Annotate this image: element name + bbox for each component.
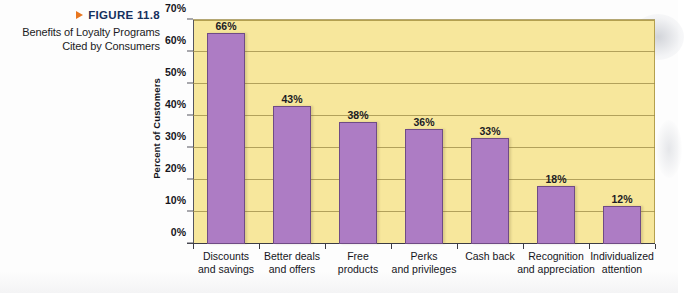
bar-value-label: 43%	[281, 93, 302, 105]
x-axis-category-line: Free	[338, 250, 378, 263]
bar-value-label: 66%	[215, 20, 236, 32]
x-axis-category-line: Perks	[392, 250, 457, 263]
x-axis-tick-mark	[391, 244, 392, 249]
bar-value-label: 36%	[413, 116, 434, 128]
y-axis-tick-label: 50%	[165, 66, 186, 78]
bar: 43%	[273, 106, 311, 244]
y-axis-tick-mark	[187, 115, 193, 116]
x-axis-category-label: Cash back	[465, 250, 515, 263]
y-axis-tick-label: 40%	[165, 98, 186, 110]
x-axis-category-label: Discountsand savings	[198, 250, 254, 276]
plot-area-wrapper: 0%10%20%30%40%50%60%70% 66%43%38%36%33%1…	[193, 20, 655, 244]
x-axis-category-line: Recognition	[517, 250, 595, 263]
bar-value-label: 18%	[545, 173, 566, 185]
x-axis-category-label: Better dealsand offers	[264, 250, 320, 276]
x-axis-category-line: attention	[590, 263, 654, 276]
x-axis-category-line: and privileges	[392, 263, 457, 276]
y-axis-tick-mark	[187, 19, 193, 20]
figure-title-line-2: Cited by Consumers	[0, 39, 160, 53]
x-axis-tick-mark	[259, 244, 260, 249]
x-axis-category-label: Individualizedattention	[590, 250, 654, 276]
x-axis-category-line: and appreciation	[517, 263, 595, 276]
gridline	[193, 51, 655, 52]
figure-title-line-1: Benefits of Loyalty Programs	[0, 25, 160, 39]
x-axis-category-line: and savings	[198, 263, 254, 276]
x-axis-tick-mark	[589, 244, 590, 249]
bar: 36%	[405, 129, 443, 244]
x-axis-category-line: Individualized	[590, 250, 654, 263]
bar-value-label: 38%	[347, 109, 368, 121]
x-axis-tick-mark	[457, 244, 458, 249]
y-axis-tick-mark	[187, 211, 193, 212]
y-axis-tick-mark	[187, 147, 193, 148]
bar-value-label: 12%	[611, 193, 632, 205]
x-axis-category-line: Discounts	[198, 250, 254, 263]
x-axis-tick-mark	[193, 244, 194, 249]
y-axis-tick-mark	[187, 83, 193, 84]
x-axis-tick-mark	[523, 244, 524, 249]
bar: 38%	[339, 122, 377, 244]
y-axis-tick-mark	[187, 51, 193, 52]
x-axis-category-line: and offers	[264, 263, 320, 276]
y-axis-tick-label: 60%	[165, 34, 186, 46]
bar: 66%	[207, 33, 245, 244]
y-axis-tick-label: 30%	[165, 130, 186, 142]
y-axis-tick-label: 20%	[165, 162, 186, 174]
x-axis-category-line: Better deals	[264, 250, 320, 263]
gridline	[193, 83, 655, 84]
y-axis-tick-label: 10%	[165, 194, 186, 206]
figure-caption: FIGURE 11.8 Benefits of Loyalty Programs…	[0, 8, 160, 53]
bar: 12%	[603, 206, 641, 244]
x-axis-tick-mark	[325, 244, 326, 249]
y-axis-tick-label: 0%	[171, 226, 186, 238]
y-axis-tick-mark	[187, 179, 193, 180]
y-axis-title: Percent of Customers	[148, 12, 164, 244]
figure-label-row: FIGURE 11.8	[0, 8, 160, 23]
gridline	[193, 19, 655, 20]
x-axis-category-line: Cash back	[465, 250, 515, 263]
bar-chart: Percent of Customers 0%10%20%30%40%50%60…	[146, 12, 660, 282]
bar: 33%	[471, 138, 509, 244]
bar: 18%	[537, 186, 575, 244]
y-axis-tick-label: 70%	[165, 2, 186, 14]
triangle-right-icon	[76, 11, 83, 19]
x-axis-category-label: Freeproducts	[338, 250, 378, 276]
x-axis-category-label: Recognitionand appreciation	[517, 250, 595, 276]
y-axis-title-text: Percent of Customers	[151, 78, 162, 179]
bar-value-label: 33%	[479, 125, 500, 137]
x-axis-category-label: Perksand privileges	[392, 250, 457, 276]
x-axis-category-line: products	[338, 263, 378, 276]
x-axis-tick-mark	[655, 244, 656, 249]
